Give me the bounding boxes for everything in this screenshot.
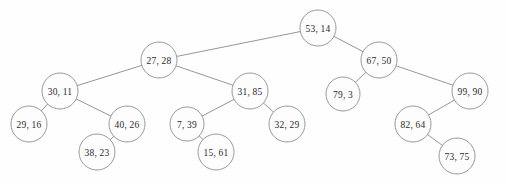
- node-label: 99, 90: [458, 87, 483, 97]
- node-label: 67, 50: [367, 56, 392, 66]
- tree-edge: [76, 99, 112, 117]
- tree-node[interactable]: 27, 28: [141, 42, 177, 78]
- tree-node[interactable]: 40, 26: [109, 106, 145, 142]
- tree-node[interactable]: 15, 61: [198, 134, 234, 170]
- tree-node[interactable]: 99, 90: [452, 73, 488, 109]
- node-label: 73, 75: [445, 152, 470, 162]
- tree-edge: [77, 65, 143, 86]
- node-label: 15, 61: [204, 148, 229, 158]
- tree-edge: [41, 104, 48, 112]
- node-label: 38, 23: [85, 148, 110, 158]
- tree-node[interactable]: 67, 50: [361, 42, 397, 78]
- node-label: 79, 3: [333, 90, 353, 100]
- tree-node[interactable]: 38, 23: [79, 134, 115, 170]
- tree-node[interactable]: 73, 75: [439, 138, 475, 174]
- tree-node[interactable]: 31, 85: [232, 73, 268, 109]
- tree-edge: [428, 100, 455, 115]
- node-label: 31, 85: [238, 87, 263, 97]
- node-label: 32, 29: [275, 120, 300, 130]
- node-label: 53, 14: [306, 24, 331, 34]
- node-label: 40, 26: [115, 120, 140, 130]
- tree-node[interactable]: 53, 14: [300, 10, 336, 46]
- tree-edge: [427, 134, 443, 145]
- tree-edge: [396, 66, 454, 86]
- node-label: 30, 11: [48, 87, 73, 97]
- tree-node[interactable]: 29, 16: [11, 106, 47, 142]
- tree-node[interactable]: 79, 3: [326, 77, 360, 111]
- tree-edge: [263, 103, 274, 113]
- tree-edge: [176, 31, 301, 56]
- tree-edge: [202, 99, 235, 116]
- tree-edge: [334, 36, 364, 52]
- node-label: 7, 39: [177, 120, 197, 130]
- tree-edge: [355, 72, 366, 83]
- tree-node[interactable]: 82, 64: [395, 106, 431, 142]
- node-label: 82, 64: [401, 120, 426, 130]
- node-layer: 53, 1427, 2867, 5030, 1131, 8579, 399, 9…: [11, 10, 488, 174]
- node-label: 27, 28: [147, 56, 172, 66]
- node-label: 29, 16: [17, 120, 42, 130]
- tree-node[interactable]: 32, 29: [269, 106, 305, 142]
- tree-node[interactable]: 30, 11: [42, 73, 78, 109]
- tree-canvas: 53, 1427, 2867, 5030, 1131, 8579, 399, 9…: [0, 0, 507, 184]
- tree-node[interactable]: 7, 39: [170, 107, 204, 141]
- tree-edge: [176, 66, 234, 86]
- binary-tree-diagram: 53, 1427, 2867, 5030, 1131, 8579, 399, 9…: [0, 0, 507, 184]
